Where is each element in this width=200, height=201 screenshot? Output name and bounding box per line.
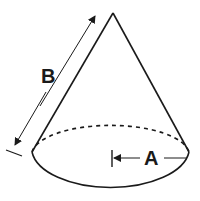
cone-outline bbox=[32, 13, 189, 152]
radius-dimension: A bbox=[112, 147, 186, 169]
radius-label: A bbox=[144, 147, 158, 169]
slant-height-label: B bbox=[41, 65, 55, 87]
cone-diagram: B A bbox=[0, 0, 200, 201]
cone-base bbox=[32, 125, 189, 187]
slant-height-tick bbox=[6, 150, 22, 156]
